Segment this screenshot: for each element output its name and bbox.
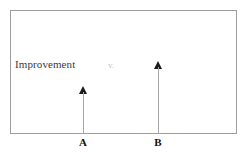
arrow-shaft-a (83, 92, 84, 134)
versus-label: v. (108, 60, 114, 71)
improvement-label: Improvement (15, 58, 75, 71)
diagram-frame (10, 10, 237, 134)
diagram-canvas: Improvement v. A B (0, 0, 245, 154)
arrow-a (79, 86, 88, 134)
point-label-a: A (76, 135, 90, 149)
arrow-b (154, 61, 163, 134)
point-label-b: B (151, 135, 165, 149)
arrow-shaft-b (158, 67, 159, 134)
